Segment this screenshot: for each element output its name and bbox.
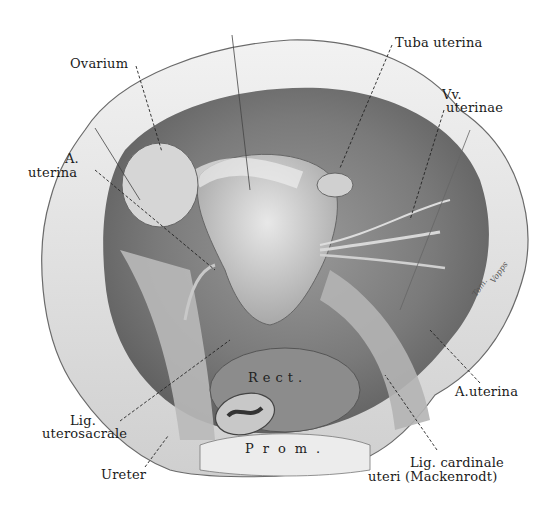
label-a-uterina-left-line2: uterina <box>28 166 77 180</box>
label-prom: Prom. <box>245 441 329 456</box>
anatomical-figure: Ovarium Tuba uterina Vv. uterinae A. ute… <box>0 0 555 523</box>
label-ureter: Ureter <box>101 468 146 482</box>
label-lig-cardinale-line1: Lig. cardinale <box>410 456 504 470</box>
label-a-uterina-right: A.uterina <box>455 385 518 399</box>
label-rect: Rect. <box>248 370 307 385</box>
label-vv-uterinae-line2: uterinae <box>446 101 503 115</box>
label-lig-cardinale-line2: uteri (Mackenrodt) <box>368 470 497 484</box>
label-tuba-uterina: Tuba uterina <box>395 36 482 50</box>
label-ovarium: Ovarium <box>70 57 128 71</box>
label-lig-uterosacrale-line2: uterosacrale <box>42 427 127 441</box>
label-a-uterina-left-line1: A. <box>65 152 79 166</box>
